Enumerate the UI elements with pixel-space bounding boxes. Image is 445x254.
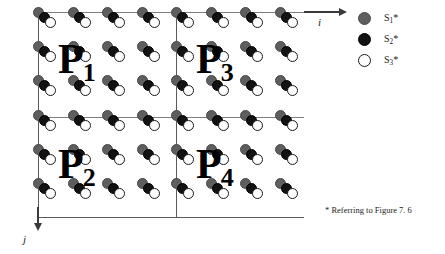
- axis-arrow-i: [304, 11, 340, 13]
- atom-s3-star-icon: [252, 17, 263, 28]
- atom-s3-star-icon: [218, 17, 229, 28]
- atom-s3-star-icon: [114, 188, 125, 199]
- atom-s3-star-icon: [149, 188, 160, 199]
- legend-label-s3: S3*: [384, 54, 398, 67]
- atom-site: [275, 178, 301, 204]
- atom-s3-star-icon: [45, 51, 56, 62]
- quadrant-label-p2: P2: [58, 143, 95, 191]
- atom-s3-star-icon: [287, 120, 298, 131]
- atom-site: [33, 178, 59, 204]
- atom-site: [275, 144, 301, 170]
- atom-s3-star-icon: [183, 17, 194, 28]
- quadrant-label-p2-base: P: [58, 141, 83, 187]
- legend-swatch-s2-icon: [358, 33, 371, 46]
- atom-s3-star-icon: [252, 120, 263, 131]
- atom-site: [171, 178, 197, 204]
- atom-s3-star-icon: [114, 85, 125, 96]
- atom-site: [102, 75, 128, 101]
- quadrant-label-p4: P4: [196, 143, 233, 191]
- atom-s3-star-icon: [114, 51, 125, 62]
- atom-site: [33, 7, 59, 33]
- atom-s3-star-icon: [80, 120, 91, 131]
- atom-site: [137, 110, 163, 136]
- atom-s3-star-icon: [149, 17, 160, 28]
- footnote: * Referring to Figure 7. 6: [325, 205, 412, 215]
- atom-site: [240, 178, 266, 204]
- atom-site: [171, 75, 197, 101]
- atom-site: [102, 110, 128, 136]
- atom-s3-star-icon: [287, 154, 298, 165]
- atom-site: [102, 178, 128, 204]
- atom-s3-star-icon: [114, 154, 125, 165]
- quadrant-label-p3-base: P: [196, 36, 221, 82]
- atom-s3-star-icon: [80, 85, 91, 96]
- atom-site: [137, 144, 163, 170]
- atom-site: [240, 41, 266, 67]
- quadrant-label-p1: P1: [58, 38, 95, 86]
- atom-s3-star-icon: [252, 85, 263, 96]
- legend-swatch-s1-icon: [358, 12, 371, 25]
- atom-s3-star-icon: [287, 85, 298, 96]
- atom-s3-star-icon: [149, 51, 160, 62]
- atom-s3-star-icon: [183, 51, 194, 62]
- grid-line-bottom: [38, 217, 304, 218]
- atom-site: [33, 41, 59, 67]
- atom-s3-star-icon: [183, 154, 194, 165]
- atom-s3-star-icon: [218, 85, 229, 96]
- atom-site: [137, 7, 163, 33]
- atom-site: [240, 75, 266, 101]
- atom-s3-star-icon: [45, 120, 56, 131]
- atom-s3-star-icon: [252, 154, 263, 165]
- legend-label-s2: S2*: [384, 33, 398, 46]
- quadrant-label-p1-sub: 1: [83, 58, 95, 87]
- atom-site: [206, 110, 232, 136]
- atom-s3-star-icon: [183, 188, 194, 199]
- atom-s3-star-icon: [149, 154, 160, 165]
- atom-site: [171, 144, 197, 170]
- atom-s3-star-icon: [252, 51, 263, 62]
- atom-site: [33, 75, 59, 101]
- quadrant-label-p3: P3: [196, 38, 233, 86]
- atom-s3-star-icon: [252, 188, 263, 199]
- legend-label-s1: S1*: [384, 12, 398, 25]
- legend-item-s1: S1*: [358, 10, 438, 31]
- axis-label-j: j: [23, 233, 26, 245]
- atom-site: [171, 110, 197, 136]
- atom-s3-star-icon: [149, 120, 160, 131]
- legend-item-s3: S3*: [358, 52, 438, 73]
- atom-s3-star-icon: [183, 120, 194, 131]
- legend-item-s2: S2*: [358, 31, 438, 52]
- atom-site: [137, 41, 163, 67]
- atom-s3-star-icon: [45, 85, 56, 96]
- atom-site: [171, 41, 197, 67]
- atom-site: [137, 75, 163, 101]
- axis-label-i: i: [318, 16, 321, 28]
- atom-s3-star-icon: [287, 51, 298, 62]
- atom-site: [171, 7, 197, 33]
- quadrant-label-p4-base: P: [196, 141, 221, 187]
- axis-arrow-j: [37, 207, 39, 224]
- quadrant-label-p4-sub: 4: [221, 163, 233, 192]
- atom-site: [275, 75, 301, 101]
- atom-site: [33, 144, 59, 170]
- atom-s3-star-icon: [183, 85, 194, 96]
- atom-s3-star-icon: [287, 17, 298, 28]
- atom-s3-star-icon: [287, 188, 298, 199]
- atom-site: [240, 7, 266, 33]
- quadrant-label-p1-base: P: [58, 36, 83, 82]
- atom-s3-star-icon: [45, 17, 56, 28]
- atom-site: [137, 178, 163, 204]
- atom-site: [102, 41, 128, 67]
- legend-swatch-s3-icon: [358, 54, 371, 67]
- atom-site: [275, 41, 301, 67]
- atom-s3-star-icon: [45, 154, 56, 165]
- atom-site: [102, 144, 128, 170]
- atom-site: [33, 110, 59, 136]
- atom-site: [240, 144, 266, 170]
- atom-site: [206, 7, 232, 33]
- atom-s3-star-icon: [80, 17, 91, 28]
- atom-s3-star-icon: [149, 85, 160, 96]
- atom-site: [275, 110, 301, 136]
- atom-s3-star-icon: [45, 188, 56, 199]
- atom-site: [240, 110, 266, 136]
